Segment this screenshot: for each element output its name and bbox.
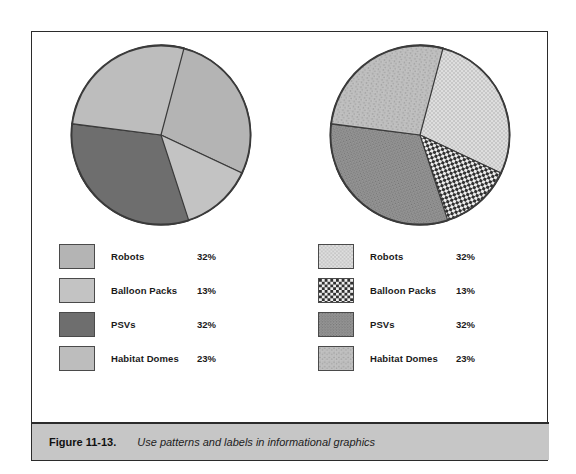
legend-percent: 23%: [197, 353, 216, 364]
legend-label: Robots: [370, 251, 456, 262]
legend-label: PSVs: [370, 319, 456, 330]
legend-row: PSVs 32%: [318, 312, 528, 337]
legend-patterned: Robots 32% Balloon Packs 13% PSVs 32%: [318, 244, 528, 380]
legend-percent: 13%: [197, 285, 216, 296]
legend-swatch-habitat-domes: [318, 346, 354, 371]
pie-chart-plain: [70, 44, 252, 226]
figure-body: Robots 32% Balloon Packs 13% PSVs 32% Ha…: [32, 32, 547, 424]
pie-chart-plain-svg: [70, 44, 252, 226]
legend-percent: 32%: [456, 319, 475, 330]
legend-row: Balloon Packs 13%: [59, 278, 269, 303]
pie-chart-patterned-svg: [329, 44, 511, 226]
legend-row: Habitat Domes 23%: [318, 346, 528, 371]
legend-label: PSVs: [111, 319, 197, 330]
legend-swatch-balloon-packs: [318, 278, 354, 303]
panel-plain-gray: Robots 32% Balloon Packs 13% PSVs 32% Ha…: [32, 32, 290, 424]
figure-caption-number: Figure 11-13.: [49, 436, 116, 448]
legend-row: Robots 32%: [318, 244, 528, 269]
legend-swatch-psvs: [318, 312, 354, 337]
legend-percent: 23%: [456, 353, 475, 364]
panel-patterned: Robots 32% Balloon Packs 13% PSVs 32%: [291, 32, 549, 424]
legend-row: PSVs 32%: [59, 312, 269, 337]
legend-swatch-robots: [318, 244, 354, 269]
legend-row: Balloon Packs 13%: [318, 278, 528, 303]
legend-percent: 32%: [197, 319, 216, 330]
legend-swatch-balloon-packs: [59, 278, 95, 303]
figure-caption-text: Use patterns and labels in informational…: [137, 436, 375, 448]
figure-caption-bar: Figure 11-13. Use patterns and labels in…: [32, 422, 549, 460]
legend-label: Balloon Packs: [370, 285, 456, 296]
pie-chart-patterned: [329, 44, 511, 226]
legend-swatch-psvs: [59, 312, 95, 337]
legend-label: Balloon Packs: [111, 285, 197, 296]
figure-frame: Robots 32% Balloon Packs 13% PSVs 32% Ha…: [31, 31, 548, 461]
legend-percent: 32%: [197, 251, 216, 262]
legend-percent: 13%: [456, 285, 475, 296]
legend-swatch-robots: [59, 244, 95, 269]
legend-percent: 32%: [456, 251, 475, 262]
legend-plain: Robots 32% Balloon Packs 13% PSVs 32% Ha…: [59, 244, 269, 380]
legend-row: Robots 32%: [59, 244, 269, 269]
legend-label: Robots: [111, 251, 197, 262]
legend-label: Habitat Domes: [111, 353, 197, 364]
legend-label: Habitat Domes: [370, 353, 456, 364]
legend-swatch-habitat-domes: [59, 346, 95, 371]
legend-row: Habitat Domes 23%: [59, 346, 269, 371]
